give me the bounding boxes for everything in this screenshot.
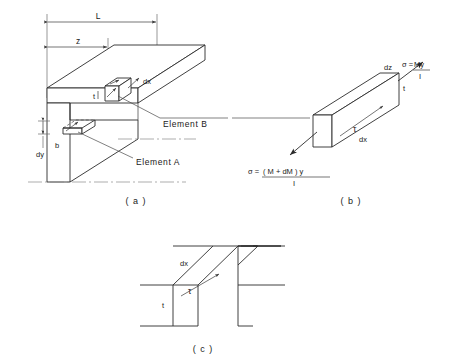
panel-c-parallelogram bbox=[173, 246, 238, 326]
panel-c-group: τ dx t ( c ) bbox=[140, 246, 285, 354]
panel-a-group: L z dz bbox=[28, 11, 228, 206]
engineering-figure-shear-flow: L z dz bbox=[0, 0, 449, 363]
panel-b-group: τ dz t dx σ = My I σ = ( M + dM ) y I ( … bbox=[232, 60, 430, 206]
formula-bottom-denominator: I bbox=[293, 179, 295, 188]
element-a-callout-group: Element A bbox=[78, 132, 180, 167]
beam-web bbox=[47, 103, 138, 182]
dimension-label-b: b bbox=[55, 141, 59, 150]
panel-c-step-diagonal bbox=[238, 246, 258, 265]
formula-top-denominator: I bbox=[419, 72, 421, 81]
dimension-label-dx: dx bbox=[143, 77, 151, 86]
dimension-label-L: L bbox=[96, 11, 101, 21]
panel-b-t-label: t bbox=[403, 84, 406, 93]
formula-top-numerator: My bbox=[414, 60, 424, 69]
panel-c-t-label: t bbox=[162, 301, 165, 310]
panel-b-dz-label: dz bbox=[384, 63, 392, 72]
dimension-label-dy: dy bbox=[36, 150, 44, 159]
panel-label-c: ( c ) bbox=[193, 344, 214, 354]
panel-label-a: ( a ) bbox=[125, 196, 146, 206]
panel-b-element-shape bbox=[313, 73, 399, 147]
formula-bottom-lhs: σ = bbox=[248, 167, 260, 176]
panel-b-formula-top: σ = My I bbox=[402, 60, 430, 81]
dimension-label-z: z bbox=[76, 36, 80, 46]
panel-label-b: ( b ) bbox=[340, 196, 361, 206]
panel-c-tau-label: τ bbox=[188, 286, 192, 296]
panel-c-dx-label: dx bbox=[180, 259, 188, 268]
panel-b-formula-bottom: σ = ( M + dM ) y I bbox=[248, 167, 330, 188]
formula-top-lhs: σ = bbox=[402, 60, 414, 69]
panel-b-dx-label: dx bbox=[359, 135, 367, 144]
formula-bottom-numerator: ( M + dM ) y bbox=[263, 167, 303, 176]
element-b-callout-label: Element B bbox=[163, 119, 208, 129]
element-a-callout-label: Element A bbox=[136, 157, 180, 167]
